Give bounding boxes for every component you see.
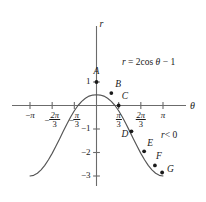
equation-r-symbol: r [122, 57, 126, 67]
x-tick-label-pos-2pi-3: 2π3 [136, 111, 147, 129]
tick-fraction: 2π3 [136, 111, 147, 129]
x-tick-label-neg-pi: −π [25, 111, 35, 120]
marked-point-a [95, 80, 99, 84]
tick-fraction: π3 [74, 111, 80, 129]
equation-theta-symbol: θ [156, 57, 161, 67]
fraction-denominator: 3 [74, 120, 80, 129]
equation-operator: = 2cos [128, 57, 153, 67]
x-tick-label-neg-pi-3: −π3 [69, 111, 80, 129]
graph-canvas [0, 0, 206, 202]
axes-layer [12, 26, 186, 186]
y-tick-label-y-m3: −3 [81, 171, 91, 180]
y-tick-label-y-1: 1 [86, 77, 91, 86]
equation-annotation: r = 2cos θ − 1 [122, 58, 175, 68]
marked-point-e [142, 149, 146, 153]
x-tick-label-pos-pi-3: π3 [116, 111, 122, 129]
point-label-c: C [122, 92, 128, 102]
x-tick-label-neg-2pi-3: −2π3 [44, 111, 60, 129]
polar-function-graph-figure: r θ r = 2cos θ − 1 r< 0 ABCDEFG−π−2π3−π3… [0, 0, 206, 202]
point-label-d: D [121, 130, 128, 140]
r-less-than-zero-note: r< 0 [161, 131, 177, 141]
marked-point-g [160, 171, 164, 175]
tick-fraction: π3 [116, 111, 122, 129]
point-label-e: E [147, 139, 153, 149]
point-label-f: F [156, 152, 162, 162]
y-tick-label-y-m2: −2 [81, 148, 91, 157]
y-axis-label-r: r [100, 19, 104, 29]
x-tick-label-pos-pi: π [161, 111, 166, 120]
tick-whole-value: π [30, 110, 35, 120]
point-label-b: B [115, 80, 121, 90]
tick-fraction: 2π3 [49, 111, 60, 129]
point-label-g: G [167, 165, 174, 175]
equation-constant: − 1 [163, 57, 175, 67]
fraction-denominator: 3 [49, 120, 60, 129]
tick-whole-value: π [161, 110, 166, 120]
points-layer [95, 80, 164, 174]
x-axis-label-theta: θ [190, 101, 195, 111]
marked-point-d [130, 129, 134, 133]
marked-point-f [153, 164, 157, 168]
fraction-denominator: 3 [116, 120, 122, 129]
fraction-denominator: 3 [136, 120, 147, 129]
y-tick-label-y-m1: −1 [81, 124, 91, 133]
point-label-a: A [94, 67, 100, 77]
marked-point-c [117, 104, 121, 108]
marked-point-b [109, 91, 113, 95]
inequality-operator: < 0 [165, 130, 177, 140]
